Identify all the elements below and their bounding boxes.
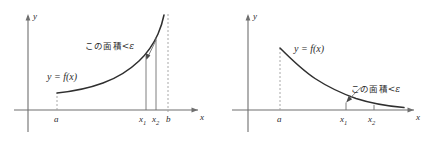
right-y-axis <box>246 14 251 132</box>
left-panel-graphic <box>0 0 218 144</box>
figure-root: y x y = f(x) この面積<ε a x1 x2 b <box>0 0 436 144</box>
diagram-panel-right: y x y = f(x) この面積<ε a x1 x2 <box>218 0 436 144</box>
right-panel-graphic <box>218 0 436 144</box>
left-x-axis <box>14 108 198 113</box>
right-x-axis <box>232 108 414 113</box>
left-y-axis <box>26 14 31 132</box>
left-annotation-arrow <box>146 40 156 60</box>
left-curve-fx <box>57 15 164 93</box>
diagram-panel-left: y x y = f(x) この面積<ε a x1 x2 b <box>0 0 218 144</box>
right-curve-fx <box>280 48 404 108</box>
